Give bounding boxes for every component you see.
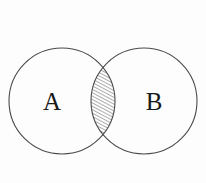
intersection-hatch-fill — [0, 0, 206, 183]
venn-diagram-canvas: A B — [0, 0, 206, 183]
intersection-region — [0, 0, 206, 183]
venn-diagram-svg: A B — [0, 0, 206, 183]
set-b-label: B — [146, 88, 163, 115]
set-a-label: A — [43, 88, 61, 115]
